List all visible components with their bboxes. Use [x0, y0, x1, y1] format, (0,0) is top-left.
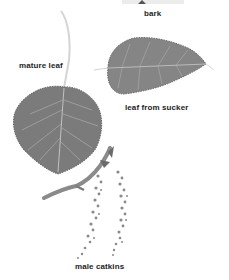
- label-bark: bark: [144, 9, 161, 18]
- catkin-right: [112, 170, 128, 256]
- illustration: [0, 0, 229, 280]
- bark-illustration: [122, 0, 184, 4]
- sucker-leaf: [94, 37, 214, 94]
- mature-leaf-petiole: [61, 11, 70, 88]
- mature-leaf: [13, 86, 101, 174]
- label-leaf-from-sucker: leaf from sucker: [125, 103, 188, 112]
- label-male-catkins: male catkins: [75, 262, 124, 271]
- label-mature-leaf: mature leaf: [19, 61, 63, 70]
